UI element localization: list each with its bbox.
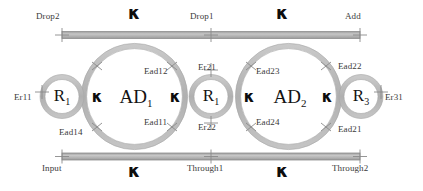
ring-label-r3: R3	[353, 87, 369, 107]
ring-label-r1-base: R	[54, 86, 65, 105]
label-er11: Er11	[14, 92, 32, 102]
kappa-r2-ad2: κ	[244, 89, 255, 106]
marker-add	[353, 28, 367, 42]
figure-canvas: Drop2 Drop1 Add κ κ Input Through1 Throu…	[0, 0, 423, 191]
label-drop1: Drop1	[190, 11, 214, 21]
ring-label-r3-base: R	[353, 86, 364, 105]
ring-label-r1: R1	[54, 87, 70, 107]
label-ead23: Ead23	[256, 66, 280, 76]
kappa-top-left: κ	[128, 5, 140, 22]
marker-through1	[204, 150, 218, 164]
marker-through2	[353, 150, 367, 164]
kappa-ad1-r2: κ	[170, 89, 181, 106]
label-ead11: Ead11	[144, 117, 167, 127]
label-through2: Through2	[332, 163, 368, 173]
ring-label-r2-base: R	[203, 86, 214, 105]
label-er31: Er31	[385, 92, 403, 102]
label-er22: Er22	[198, 122, 216, 132]
ring-label-r3-sub: 3	[364, 96, 369, 107]
label-add: Add	[345, 11, 361, 21]
label-er21: Er21	[198, 62, 216, 72]
label-through1: Through1	[187, 163, 223, 173]
ring-label-ad1: AD1	[120, 87, 153, 110]
kappa-r1-ad1: κ	[92, 89, 103, 106]
ring-label-ad2-base: AD	[274, 86, 301, 107]
ring-label-ad2-sub: 2	[301, 97, 307, 109]
ring-label-ad2: AD2	[274, 87, 307, 110]
ring-label-r2-sub: 1	[214, 96, 219, 107]
label-drop2: Drop2	[36, 11, 60, 21]
marker-input	[55, 150, 69, 164]
ring-label-r1-sub: 1	[65, 96, 70, 107]
label-ead22: Ead22	[338, 61, 362, 71]
label-ead21: Ead21	[338, 124, 362, 134]
marker-drop2	[55, 28, 69, 42]
label-ead24: Ead24	[256, 117, 280, 127]
label-ead14: Ead14	[59, 127, 83, 137]
label-ead12: Ead12	[144, 66, 168, 76]
kappa-top-right: κ	[276, 5, 288, 22]
label-input: Input	[42, 163, 62, 173]
kappa-bottom-left: κ	[128, 163, 140, 180]
ring-label-r2: R1	[203, 87, 219, 107]
ring-label-ad1-base: AD	[120, 86, 147, 107]
ring-label-ad1-sub: 1	[147, 97, 153, 109]
kappa-bottom-right: κ	[276, 163, 288, 180]
kappa-ad2-r3: κ	[322, 89, 333, 106]
marker-drop1	[204, 28, 218, 42]
